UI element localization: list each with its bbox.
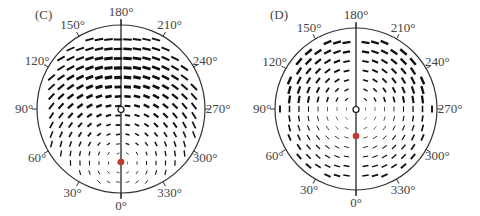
angle-label: 90° [253, 101, 271, 116]
angle-label: 300° [425, 148, 450, 163]
angle-label: 330° [391, 182, 416, 197]
angle-label: 300° [193, 150, 218, 165]
angle-label: 30° [300, 182, 318, 197]
angle-label: 240° [425, 54, 450, 69]
angle-label: 0° [350, 195, 362, 210]
panel-label: (C) [35, 7, 52, 22]
angle-label: 0° [115, 198, 127, 213]
angle-label: 180° [109, 4, 134, 19]
angle-label: 90° [15, 101, 33, 116]
angle-label: 270° [438, 101, 463, 116]
angle-label: 150° [297, 20, 322, 35]
zenith-marker [118, 107, 124, 113]
panel-label: (D) [270, 7, 288, 22]
polar-panel-C: (C)0°30°60°90°120°150°180°210°240°270°30… [15, 4, 230, 213]
angle-tick [397, 35, 400, 39]
angle-label: 180° [344, 7, 369, 22]
polarization-figure: (C)0°30°60°90°120°150°180°210°240°270°30… [0, 0, 480, 216]
angle-tick [163, 32, 166, 36]
angle-label: 120° [262, 54, 287, 69]
angle-label: 210° [157, 17, 182, 32]
angle-label: 150° [60, 17, 85, 32]
angle-tick [77, 32, 80, 36]
sun-position-dot [353, 133, 360, 140]
angle-label: 270° [206, 101, 231, 116]
angle-label: 330° [157, 185, 182, 200]
angle-label: 60° [28, 150, 46, 165]
angle-label: 60° [265, 148, 283, 163]
sun-position-dot [118, 159, 125, 166]
zenith-marker [353, 107, 359, 113]
angle-label: 240° [193, 53, 218, 68]
polar-panel-D: (D)0°30°60°90°120°150°180°210°240°270°30… [253, 7, 462, 210]
angle-label: 120° [25, 53, 50, 68]
angle-label: 210° [391, 20, 416, 35]
angle-tick [313, 35, 316, 39]
angle-label: 30° [63, 185, 81, 200]
